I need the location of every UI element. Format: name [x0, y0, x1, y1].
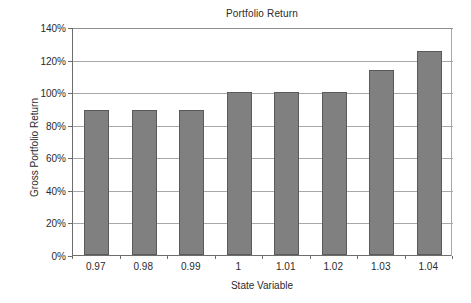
- bar-slot: [406, 27, 454, 255]
- bar-1.04[interactable]: [417, 51, 442, 255]
- x-tick-1.02: 1.02: [310, 258, 358, 276]
- x-tick-label-1.03: 1.03: [357, 258, 405, 272]
- x-tick-1.01: 1.01: [262, 258, 310, 276]
- bar-slot: [73, 27, 121, 255]
- y-tick-label-20%: 20%: [46, 218, 66, 229]
- bars-container: [73, 27, 453, 255]
- y-tick-label-140%: 140%: [40, 23, 66, 34]
- chart-title: Portfolio Return: [72, 8, 452, 19]
- bar-slot: [121, 27, 169, 255]
- x-tick-label-0.99: 0.99: [167, 258, 215, 272]
- x-axis-title: State Variable: [72, 280, 452, 291]
- x-tick-label-0.98: 0.98: [120, 258, 168, 272]
- x-tick-1.04: 1.04: [405, 258, 453, 276]
- bar-slot: [311, 27, 359, 255]
- x-tick-mark-0.97: [72, 256, 73, 259]
- x-tick-1.03: 1.03: [357, 258, 405, 276]
- x-tick-mark-1: [215, 256, 216, 259]
- x-tick-mark-1.01: [262, 256, 263, 259]
- y-axis-tick-labels: 0%20%40%60%80%100%120%140%: [0, 28, 72, 256]
- bar-1.03[interactable]: [369, 70, 394, 255]
- x-tick-0.97: 0.97: [72, 258, 120, 276]
- bar-1.01[interactable]: [274, 92, 299, 255]
- y-tick-label-80%: 80%: [46, 120, 66, 131]
- x-tick-mark-1.04: [405, 256, 406, 259]
- x-tick-0.99: 0.99: [167, 258, 215, 276]
- bar-slot: [263, 27, 311, 255]
- y-tick-label-60%: 60%: [46, 153, 66, 164]
- x-tick-mark-1.02: [310, 256, 311, 259]
- bar-0.97[interactable]: [84, 110, 109, 255]
- x-axis-end-tick-mark: [452, 256, 453, 259]
- x-tick-label-1: 1: [215, 258, 263, 272]
- y-tick-label-120%: 120%: [40, 55, 66, 66]
- x-tick-mark-0.98: [120, 256, 121, 259]
- portfolio-return-chart: Portfolio Return Gross Portfolio Return …: [0, 0, 471, 303]
- bar-slot: [168, 27, 216, 255]
- x-tick-label-1.04: 1.04: [405, 258, 453, 272]
- bar-1.02[interactable]: [322, 92, 347, 255]
- x-tick-label-1.01: 1.01: [262, 258, 310, 272]
- plot-area: [72, 28, 452, 256]
- y-tick-label-0%: 0%: [52, 251, 66, 262]
- bar-1[interactable]: [227, 92, 252, 255]
- x-tick-label-0.97: 0.97: [72, 258, 120, 272]
- x-axis-tick-labels: 0.970.980.9911.011.021.031.04: [72, 258, 452, 276]
- x-tick-mark-0.99: [167, 256, 168, 259]
- x-tick-1: 1: [215, 258, 263, 276]
- y-tick-label-40%: 40%: [46, 185, 66, 196]
- y-tick-label-100%: 100%: [40, 88, 66, 99]
- x-tick-0.98: 0.98: [120, 258, 168, 276]
- bar-0.98[interactable]: [132, 110, 157, 255]
- bar-slot: [216, 27, 264, 255]
- x-tick-mark-1.03: [357, 256, 358, 259]
- bar-slot: [358, 27, 406, 255]
- x-tick-label-1.02: 1.02: [310, 258, 358, 272]
- bar-0.99[interactable]: [179, 110, 204, 255]
